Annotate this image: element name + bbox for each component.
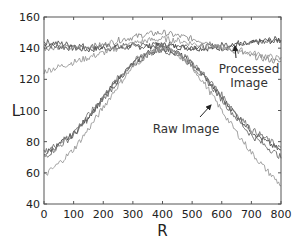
x-tick-label: 200 — [93, 208, 114, 221]
annotation-raw-image: Raw Image — [153, 122, 220, 136]
x-tick-label: 400 — [152, 208, 173, 221]
x-tick-label: 100 — [63, 208, 84, 221]
x-tick-label: 300 — [122, 208, 143, 221]
y-tick-label: 60 — [26, 167, 40, 180]
series-layer — [44, 30, 281, 186]
x-axis-label: R — [157, 222, 167, 240]
line-chart: 0100200300400500600700800 40608010012014… — [0, 0, 300, 249]
y-tick-label: 160 — [19, 11, 40, 24]
y-tick-label: 120 — [19, 73, 40, 86]
x-tick-label: 0 — [41, 208, 48, 221]
y-tick-label: 40 — [26, 198, 40, 211]
x-tick-label: 600 — [211, 208, 232, 221]
annotation-processed-image: ProcessedImage — [219, 62, 280, 90]
x-tick-label: 800 — [271, 208, 292, 221]
y-tick-label: 80 — [26, 136, 40, 149]
y-tick-label: 140 — [19, 42, 40, 55]
y-axis-label: L — [12, 102, 21, 120]
x-tick-label: 500 — [182, 208, 203, 221]
series-raw-line — [44, 44, 281, 154]
y-tick-label: 100 — [19, 105, 40, 118]
annotation-arrow — [200, 105, 211, 117]
x-tick-label: 700 — [241, 208, 262, 221]
